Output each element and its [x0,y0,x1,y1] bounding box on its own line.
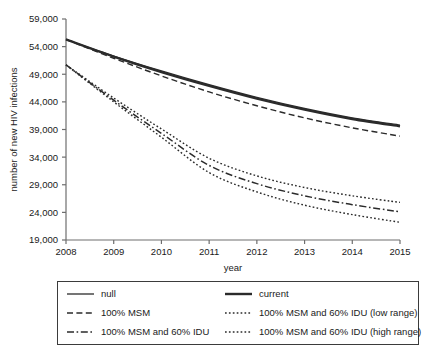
legend-line-sample-icon [225,327,252,337]
chart-plot-area: 19,00024,00029,00034,00039,00044,00049,0… [0,0,424,280]
legend-line-sample-icon [67,327,94,337]
series-line [66,39,400,125]
legend-item-label: current [259,289,289,299]
y-axis-tick-label: 29,000 [29,179,58,190]
series-line [66,39,400,126]
legend-item-label: 100% MSM and 60% IDU (low range) [259,308,417,318]
y-axis-tick-label: 44,000 [29,96,58,107]
series-line [66,65,400,222]
x-axis-tick-label: 2010 [151,246,172,257]
y-axis-tick-label: 24,000 [29,207,58,218]
y-axis-title: number of new HIV infections [8,67,19,191]
series-line [66,39,400,136]
legend-item-label: 100% MSM and 60% IDU (high range) [259,327,421,337]
x-axis-tick-label: 2009 [103,246,124,257]
legend-line-sample-icon [225,308,252,318]
legend-line-sample-icon [225,289,252,299]
legend-item: 100% MSM [58,308,216,318]
legend-line-sample-icon [67,308,94,318]
x-axis-tick-label: 2012 [246,246,267,257]
y-axis-tick-label: 59,000 [29,13,58,24]
legend-item: 100% MSM and 60% IDU (high range) [216,327,421,337]
legend-item: current [216,289,421,299]
y-axis-tick-label: 19,000 [29,234,58,245]
x-axis-tick-label: 2013 [294,246,315,257]
x-axis-tick-label: 2014 [342,246,363,257]
legend-line-sample-icon [67,289,94,299]
legend-item: null [58,289,216,299]
y-axis-tick-label: 54,000 [29,41,58,52]
x-axis-tick-label: 2008 [55,246,76,257]
legend-item-label: 100% MSM and 60% IDU [101,327,209,337]
x-axis-tick-label: 2011 [199,246,219,257]
y-axis-tick-label: 34,000 [29,152,58,163]
chart-svg: 19,00024,00029,00034,00039,00044,00049,0… [0,0,424,280]
chart-legend: nullcurrent100% MSM100% MSM and 60% IDU … [57,281,419,345]
legend-item-label: 100% MSM [101,308,150,318]
legend-item: 100% MSM and 60% IDU (low range) [216,308,421,318]
y-axis-tick-label: 49,000 [29,69,58,80]
x-axis-tick-label: 2015 [389,246,410,257]
series-line [66,65,400,212]
y-axis-tick-label: 39,000 [29,124,58,135]
legend-grid: nullcurrent100% MSM100% MSM and 60% IDU … [58,282,418,344]
legend-item: 100% MSM and 60% IDU [58,327,216,337]
series-line [66,65,400,203]
legend-item-label: null [101,289,116,299]
hiv-infections-line-chart: 19,00024,00029,00034,00039,00044,00049,0… [0,0,424,354]
x-axis-title: year [224,262,242,273]
